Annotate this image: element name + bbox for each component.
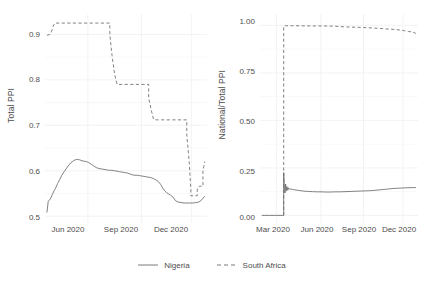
legend-key-dashed-line-icon [216,260,238,270]
left-panel-xtick-0: Jun 2020 [38,226,98,234]
left-panel-ytick-3: 0.6 [18,168,40,176]
left-panel-ytick-4: 0.5 [18,214,40,222]
right-panel-y-axis-title: National/Total PPI [217,70,227,139]
legend-label-south-africa: South Africa [243,261,286,270]
legend-label-nigeria: Nigeria [164,261,189,270]
legend-item-nigeria: Nigeria [137,260,189,270]
series-line-south-africa [47,23,205,196]
legend-item-south-africa: South Africa [216,260,286,270]
left-panel-ytick-0: 0.9 [18,31,40,39]
figure-container: Total PPI 0.9 0.8 0.7 0.6 0.5 Jun 2020 S… [0,0,423,282]
right-panel-ytick-2: 0.50 [225,118,255,126]
right-panel-ytick-4: 0.00 [225,214,255,222]
series-line-nigeria [47,159,205,212]
panel-national-total-ppi: National/Total PPI 1.00 0.75 0.50 0.25 0… [211,0,423,248]
panel-total-ppi: Total PPI 0.9 0.8 0.7 0.6 0.5 Jun 2020 S… [0,0,211,248]
left-panel-plot-area [45,14,207,223]
panels-row: Total PPI 0.9 0.8 0.7 0.6 0.5 Jun 2020 S… [0,0,423,248]
left-panel-y-axis-title: Total PPI [6,88,16,123]
right-panel-xtick-3: Dec 2020 [369,226,423,234]
series-line-nigeria [262,173,416,216]
left-panel-xtick-2: Dec 2020 [141,226,201,234]
legend-key-solid-line-icon [137,260,159,270]
left-panel-ytick-2: 0.7 [18,122,40,130]
chart-legend: Nigeria South Africa [0,248,423,282]
right-panel-ytick-0: 1.00 [225,18,255,26]
right-panel-ytick-3: 0.25 [225,168,255,176]
right-panel-ytick-1: 0.75 [225,68,255,76]
right-panel-plot-area [260,14,418,223]
left-panel-ytick-1: 0.8 [18,76,40,84]
